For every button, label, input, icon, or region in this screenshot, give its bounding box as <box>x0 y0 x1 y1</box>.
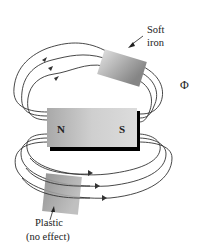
plastic-label-line1: Plastic <box>35 217 63 228</box>
south-pole-label: S <box>119 123 125 135</box>
soft-iron-annotation: Soft iron <box>128 24 165 48</box>
soft-iron-block <box>97 49 147 87</box>
plastic-label-line2: (no effect) <box>26 231 70 243</box>
flux-symbol: Φ <box>180 78 189 92</box>
bar-magnet: N S <box>47 108 140 151</box>
soft-iron-label-line2: iron <box>147 37 165 48</box>
soft-iron-label-line1: Soft <box>147 24 165 35</box>
magnetic-field-diagram: N S Soft iron Φ Plastic (no effect) <box>0 0 202 244</box>
north-pole-label: N <box>57 123 65 135</box>
